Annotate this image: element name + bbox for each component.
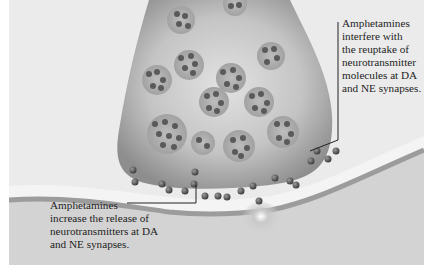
annotation-line: Amphetamines [342,17,421,30]
release-annotation: Amphetamines increase the release of neu… [50,199,158,251]
annotation-line: the reuptake of [342,43,421,56]
receptor-site [241,202,281,238]
reuptake-annotation: Amphetamines interfere with the reuptake… [342,17,421,95]
annotation-line: and NE synapses. [342,82,421,95]
synapse-diagram: Amphetamines interfere with the reuptake… [9,0,424,265]
annotation-line: Amphetamines [50,199,158,212]
annotation-line: increase the release of [50,212,158,225]
annotation-line: neurotransmitter [342,56,421,69]
annotation-line: neurotransmitters at DA [50,225,158,238]
annotation-line: and NE synapses. [50,238,158,251]
annotation-line: interfere with [342,30,421,43]
annotation-line: molecules at DA [342,69,421,82]
